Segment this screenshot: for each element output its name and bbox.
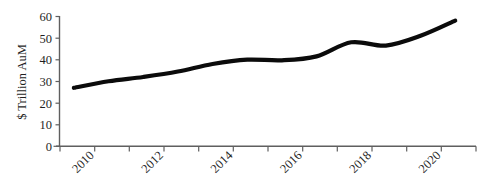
x-axis-ticks [60,146,476,151]
y-axis-ticks [54,17,60,147]
chart-container: $ Trillion AuM 60 50 40 30 20 10 0 [0,0,488,191]
y-tick-label: 0 [46,140,52,154]
y-tick-label: 40 [40,53,53,67]
y-tick-label: 20 [40,97,53,111]
y-axis-title: $ Trillion AuM [15,44,29,120]
x-axis-tick-labels: 2010 2012 2014 2016 2018 2020 [69,148,443,176]
y-tick-label: 30 [40,75,53,89]
y-tick-label: 10 [40,118,53,132]
line-chart: $ Trillion AuM 60 50 40 30 20 10 0 [0,0,488,191]
x-tick-label: 2018 [347,148,375,176]
y-tick-label: 50 [40,32,53,46]
x-tick-label: 2012 [139,148,167,176]
data-series-line [74,21,455,88]
x-tick-label: 2020 [416,148,444,176]
x-tick-label: 2014 [208,148,236,176]
x-tick-label: 2010 [69,148,97,176]
y-axis-tick-labels: 60 50 40 30 20 10 0 [40,10,53,154]
x-tick-label: 2016 [277,148,305,176]
y-tick-label: 60 [40,10,53,24]
